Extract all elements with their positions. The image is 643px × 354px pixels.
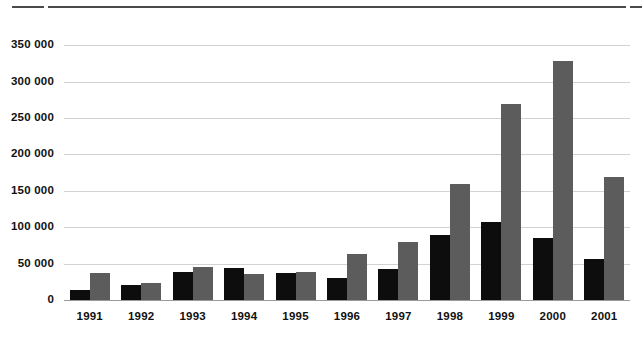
bar (327, 278, 347, 300)
bar (90, 273, 110, 300)
bar-group (476, 38, 527, 300)
bar (141, 283, 161, 300)
bar-group (424, 38, 475, 300)
bar-group (527, 38, 578, 300)
x-axis-tick-label: 1992 (115, 310, 166, 322)
top-rule-main (48, 6, 626, 8)
x-axis-tick-label: 2000 (527, 310, 578, 322)
bar (347, 254, 367, 300)
bar (224, 268, 244, 300)
bar (296, 272, 316, 300)
x-axis-tick-label: 1996 (321, 310, 372, 322)
bar (173, 272, 193, 300)
bar (584, 259, 604, 300)
top-rule-right (630, 6, 642, 8)
bar-group (167, 38, 218, 300)
y-axis-tick-label: 150 000 (0, 185, 54, 197)
chart-figure: 050 000100 000150 000200 000250 000300 0… (0, 0, 643, 354)
bar-group (64, 38, 115, 300)
bar (121, 285, 141, 300)
bar-group (115, 38, 166, 300)
bar-group (321, 38, 372, 300)
bar (533, 238, 553, 300)
x-axis-tick-label: 1995 (270, 310, 321, 322)
y-axis-tick-label: 0 (0, 294, 54, 306)
bar (481, 222, 501, 300)
x-axis-tick-label: 2001 (579, 310, 630, 322)
y-axis-tick-label: 300 000 (0, 76, 54, 88)
bar (450, 184, 470, 300)
bar (70, 290, 90, 300)
plot-area: 050 000100 000150 000200 000250 000300 0… (64, 38, 630, 300)
x-axis-tick-label: 1991 (64, 310, 115, 322)
x-axis-tick-label: 1993 (167, 310, 218, 322)
bar-group (270, 38, 321, 300)
bar-group (579, 38, 630, 300)
bar (553, 61, 573, 300)
x-axis-tick-label: 1994 (218, 310, 269, 322)
bar (430, 235, 450, 300)
bar-group (218, 38, 269, 300)
top-rule-left (12, 6, 44, 8)
y-axis-tick-label: 100 000 (0, 221, 54, 233)
y-axis-tick-label: 50 000 (0, 258, 54, 270)
bar (276, 273, 296, 300)
x-axis-tick-label: 1998 (424, 310, 475, 322)
x-axis-tick-label: 1999 (476, 310, 527, 322)
x-axis-tick-label: 1997 (373, 310, 424, 322)
y-axis-tick-label: 250 000 (0, 112, 54, 124)
bar-group (373, 38, 424, 300)
bar (244, 274, 264, 300)
bar (398, 242, 418, 300)
y-axis-tick-label: 350 000 (0, 39, 54, 51)
bar (378, 269, 398, 300)
bar (193, 267, 213, 300)
bar (604, 177, 624, 300)
y-axis-tick-label: 200 000 (0, 148, 54, 160)
bar (501, 104, 521, 300)
gridline (64, 300, 630, 301)
